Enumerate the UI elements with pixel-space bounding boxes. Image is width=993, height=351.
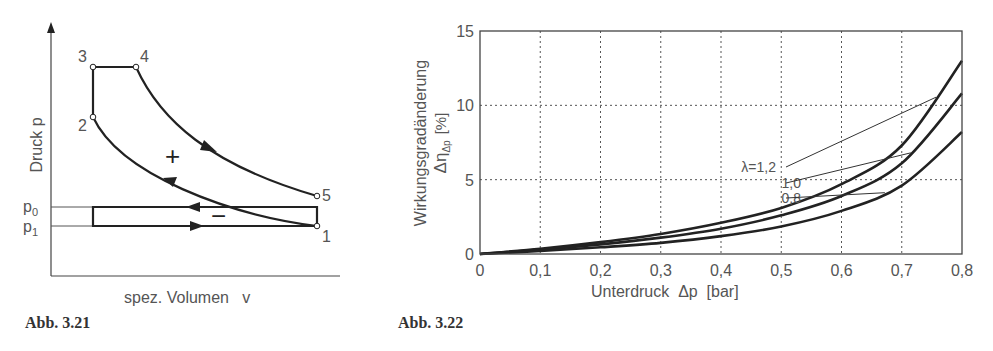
y-tick-label: 0 (465, 246, 474, 263)
state-point-3 (90, 64, 96, 70)
curve-annotations: λ=1,21,00,8 (741, 97, 936, 206)
state-point-4 (133, 64, 139, 70)
x-tick-label: 0,2 (589, 262, 611, 279)
x-tick-label: 0,5 (770, 262, 792, 279)
p0-label: p0 (23, 198, 38, 218)
x-tick-labels: 00,10,20,30,40,50,60,70,8 (476, 262, 974, 279)
arrow-right-icon (190, 221, 204, 231)
state-point-1 (314, 223, 320, 229)
pv-y-axis-arrow-icon (47, 22, 55, 33)
compression-1-2 (93, 117, 317, 226)
expansion-4-5 (136, 67, 317, 196)
curve-label: λ=1,2 (741, 159, 776, 175)
negative-work-sign: − (211, 201, 226, 231)
state-label-2: 2 (78, 117, 87, 134)
pv-y-axis-label: Druck p (28, 117, 45, 172)
gas-exchange-loop (93, 207, 317, 226)
x-axis-label: Unterdruck Δp [bar] (591, 283, 739, 300)
pv-diagram: Druck p spez. Volumen v p0 p1 3 4 2 5 (23, 22, 340, 331)
arrow-expansion-icon (200, 140, 217, 152)
state-label-1: 1 (322, 228, 331, 245)
state-point-5 (314, 193, 320, 199)
figure-canvas: Druck p spez. Volumen v p0 p1 3 4 2 5 (0, 0, 993, 351)
positive-work-sign: + (165, 141, 180, 171)
y-axis-label-line2: ΔηΔp[%] (431, 113, 452, 174)
y-tick-label: 10 (456, 97, 474, 114)
curve-leader-line (786, 153, 911, 183)
x-tick-label: 0,3 (650, 262, 672, 279)
x-tick-label: 0,7 (891, 262, 913, 279)
figure-caption-3-21: Abb. 3.21 (25, 314, 90, 331)
figure-caption-3-22: Abb. 3.22 (398, 314, 463, 331)
y-tick-label: 15 (456, 23, 474, 40)
state-label-3: 3 (78, 48, 87, 65)
state-label-5: 5 (322, 187, 331, 204)
arrow-left-icon (186, 202, 200, 212)
pv-x-axis-label: spez. Volumen v (124, 289, 250, 306)
curve-label: 1,0 (782, 175, 802, 191)
chart-grid (480, 31, 962, 254)
curve-lambda-08 (480, 132, 962, 254)
state-label-4: 4 (140, 48, 149, 65)
x-tick-label: 0,6 (830, 262, 852, 279)
efficiency-chart: 00,10,20,30,40,50,60,70,8 051015 λ=1,21,… (398, 23, 973, 331)
y-axis-label-line1: Wirkungsgradänderung (412, 60, 429, 226)
x-tick-label: 0,4 (710, 262, 732, 279)
x-tick-label: 0,8 (951, 262, 973, 279)
p1-label: p1 (23, 218, 38, 238)
x-tick-label: 0 (476, 262, 485, 279)
y-tick-label: 5 (465, 172, 474, 189)
x-tick-label: 0,1 (529, 262, 551, 279)
y-tick-labels: 051015 (456, 23, 474, 263)
state-point-2 (90, 114, 96, 120)
